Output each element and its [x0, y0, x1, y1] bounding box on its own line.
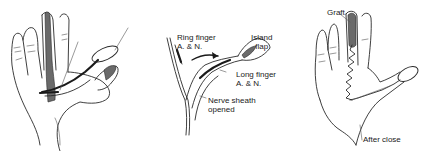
label-after-close: After close — [363, 135, 401, 144]
panel-after-closure: Graft After close — [290, 0, 432, 151]
label-nerve-sheath-opened: Nerve sheath opened — [208, 96, 256, 114]
panel-pedicle-detail: Ring finger A. & N. Island flap Long fin… — [150, 0, 300, 151]
hand-flap-elevation-illustration — [0, 0, 150, 151]
label-graft: Graft — [327, 8, 345, 17]
label-island-flap: Island flap — [251, 33, 272, 51]
pedicle-dissection-illustration — [150, 0, 300, 151]
hand-after-closure-illustration — [290, 0, 432, 151]
panel-flap-elevation — [0, 0, 150, 151]
arrow-head-icon — [212, 52, 218, 59]
label-long-finger-artery-nerve: Long finger A. & N. — [236, 70, 276, 88]
label-ring-finger-artery-nerve: Ring finger A. & N. — [177, 33, 216, 51]
